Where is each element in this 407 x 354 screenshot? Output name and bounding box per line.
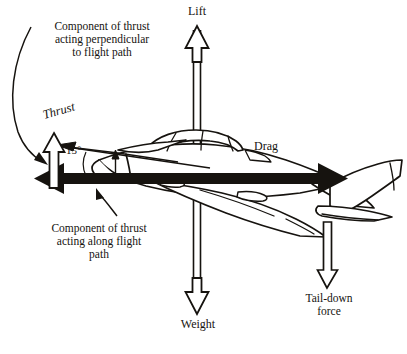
tail-down-force-line2: force [293,305,365,318]
along-component-caption: Component of thrust acting along flight … [28,222,170,261]
tail-down-force-line1: Tail-down [293,292,365,305]
lift-arrow [186,26,209,62]
along-component-line1: Component of thrust [28,222,170,235]
weight-arrow [186,278,209,314]
lift-label: Lift [173,5,221,18]
perpendicular-component-line3: to flight path [26,46,178,59]
thrust-drag-axis-bar [50,173,335,184]
tail-down-force-caption: Tail-down force [293,292,365,318]
forces-diagram: Component of thrust acting perpendicular… [0,0,407,354]
along-component-line2: acting along flight [28,235,170,248]
along-component-leader [96,188,117,216]
weight-label: Weight [170,318,226,331]
tail-down-force-arrow [318,222,338,288]
perpendicular-component-line2: acting perpendicular [26,33,178,46]
perpendicular-component-caption: Component of thrust acting perpendicular… [26,20,178,59]
perpendicular-component-line1: Component of thrust [26,20,178,33]
along-component-line3: path [28,248,170,261]
angle-label: 15° [66,144,100,156]
drag-label: Drag [240,140,292,153]
